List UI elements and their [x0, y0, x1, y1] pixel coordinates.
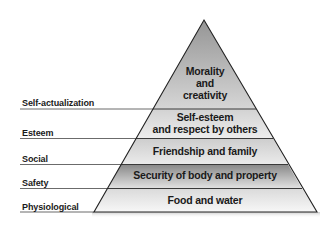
desc-esteem-line-2: and respect by others — [153, 123, 258, 135]
desc-self-actualization-line-1: Morality — [186, 65, 225, 77]
level-name-physiological: Physiological — [22, 202, 79, 212]
desc-self-actualization-line-3: creativity — [183, 89, 227, 101]
level-name-social: Social — [22, 154, 48, 164]
desc-safety: Security of body and property — [133, 169, 277, 181]
desc-social: Friendship and family — [153, 145, 258, 157]
pyramid-diagram: Self-actualization Esteem Social Safety … — [0, 0, 335, 236]
level-names: Self-actualization Esteem Social Safety … — [22, 98, 94, 212]
desc-esteem-line-1: Self-esteem — [177, 111, 234, 123]
pyramid-svg: Self-actualization Esteem Social Safety … — [0, 0, 335, 236]
level-name-safety: Safety — [22, 178, 49, 188]
desc-self-actualization-line-2: and — [196, 77, 214, 89]
level-name-self-actualization: Self-actualization — [22, 98, 94, 108]
desc-physiological: Food and water — [168, 194, 243, 206]
level-name-esteem: Esteem — [22, 128, 54, 138]
pyramid-shadow — [92, 212, 320, 218]
